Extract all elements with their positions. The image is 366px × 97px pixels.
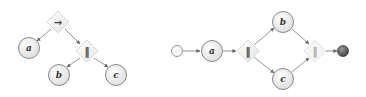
parallel-split-label: ‖ <box>246 46 251 58</box>
activity-b-label: b <box>280 17 286 27</box>
activity-c-node: c <box>273 69 294 90</box>
leaf-b-label: b <box>56 70 62 80</box>
leaf-a-label: a <box>26 43 32 53</box>
edge-par-to-b <box>67 58 80 67</box>
parallel-join-label: ‖ <box>313 46 318 58</box>
process-tree: → a ‖ b c <box>19 11 127 86</box>
leaf-c-label: c <box>113 70 119 80</box>
leaf-b-node: b <box>49 65 70 86</box>
edge-c-to-join <box>292 58 309 72</box>
start-event <box>172 46 183 57</box>
process-diagram: → a ‖ b c <box>0 0 366 97</box>
sequence-operator-label: → <box>54 17 62 28</box>
parallel-operator-label: ‖ <box>85 46 90 58</box>
process-model: a ‖ b c ‖ <box>172 12 349 90</box>
parallel-join-gateway: ‖ <box>304 40 326 62</box>
leaf-c-node: c <box>106 65 127 86</box>
end-event <box>338 46 349 57</box>
edge-b-to-join <box>292 29 309 44</box>
edge-split-to-c <box>254 57 274 73</box>
edge-split-to-b <box>254 28 274 45</box>
activity-c-label: c <box>280 74 286 84</box>
leaf-a-node: a <box>19 38 40 59</box>
activity-b-node: b <box>273 12 294 33</box>
edge-par-to-c <box>94 58 108 67</box>
activity-a-node: a <box>202 41 223 62</box>
edge-seq-to-a <box>37 29 51 41</box>
activity-a-label: a <box>209 46 215 56</box>
edge-seq-to-par <box>65 29 80 44</box>
